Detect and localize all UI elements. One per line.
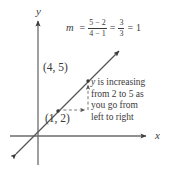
annotation-line-3: you go from (91, 100, 138, 110)
difference-quotient-fraction: 5 − 2 4 − 1 (88, 18, 107, 38)
annotation-line-2: from 2 to 5 as (91, 89, 144, 99)
slope-formula: m = 5 − 2 4 − 1 = 3 3 = 1 (66, 18, 141, 38)
slope-diagram: y x (4, 5) (1, 2) m = 5 − 2 4 − 1 = 3 3 … (0, 0, 171, 169)
simplified-denominator: 3 (118, 28, 124, 39)
point-marker-upper (86, 79, 89, 82)
equals-sign-2: = (110, 23, 116, 33)
annotation-line-1: is increasing (95, 77, 145, 87)
slope-result: 1 (136, 23, 141, 33)
point-label-4-5: (4, 5) (43, 62, 68, 74)
x-axis-label: x (155, 130, 160, 141)
equals-sign-3: = (127, 23, 133, 33)
annotation-line-4: left to right (91, 112, 134, 122)
run-expression: 4 − 1 (88, 28, 107, 39)
y-axis-label: y (36, 6, 41, 17)
equals-sign-1: = (80, 23, 86, 33)
simplified-numerator: 3 (118, 18, 124, 28)
slope-variable: m (66, 23, 74, 34)
annotation-text: y is increasing from 2 to 5 as you go fr… (91, 77, 167, 123)
rise-expression: 5 − 2 (88, 18, 107, 28)
simplified-fraction: 3 3 (118, 18, 124, 38)
point-label-1-2: (1, 2) (45, 113, 70, 125)
